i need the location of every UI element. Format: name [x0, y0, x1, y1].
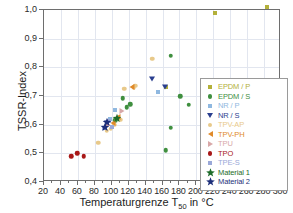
- legend-item-material-1[interactable]: Material 1: [204, 168, 285, 178]
- y-tick-mark: [39, 66, 43, 67]
- data-point: [130, 84, 135, 90]
- x-tick-mark: [145, 181, 146, 185]
- x-tick-mark: [178, 181, 179, 185]
- legend-label: EPDM / S: [218, 92, 250, 101]
- legend-label: TPO: [218, 149, 233, 158]
- y-tick-label: 0,4: [9, 176, 37, 186]
- gridline-vertical: [61, 10, 62, 180]
- data-point: [149, 76, 155, 81]
- legend-marker-icon: [206, 168, 214, 177]
- data-point: [150, 56, 155, 61]
- data-point: [119, 108, 124, 114]
- x-tick-label: 40: [55, 186, 65, 196]
- data-point: [131, 85, 136, 90]
- x-tick-label: 160: [154, 186, 169, 196]
- x-tick-label: 60: [72, 186, 82, 196]
- gridline-vertical: [146, 10, 147, 180]
- legend-label: TPE-S: [218, 158, 240, 167]
- legend-label: TPV-PH: [218, 130, 245, 139]
- data-point: [69, 154, 74, 159]
- x-axis-title-main: Temperaturgrenze T: [79, 196, 178, 208]
- legend-marker-icon: [206, 158, 214, 167]
- x-tick-minor: [170, 181, 171, 183]
- y-axis-title: TSSR-Index: [16, 36, 28, 166]
- data-point: [115, 115, 120, 120]
- chart-legend[interactable]: EPDM / PEPDM / SNR / PNR / STPV-APTPV-PH…: [200, 78, 288, 191]
- data-point: [104, 129, 109, 134]
- legend-item-tpv-ph[interactable]: TPV-PH: [204, 130, 285, 140]
- legend-item-tpe-s[interactable]: TPE-S: [204, 158, 285, 168]
- data-point: [169, 54, 174, 59]
- legend-item-material-2[interactable]: Material 2: [204, 177, 285, 187]
- data-point: [113, 118, 118, 123]
- legend-marker-icon: [206, 92, 214, 101]
- data-point: [107, 119, 111, 123]
- legend-marker-icon: [206, 101, 214, 110]
- legend-label: EPDM / P: [218, 82, 250, 91]
- data-point: [164, 148, 169, 153]
- legend-item-tpv-ap[interactable]: TPV-AP: [204, 120, 285, 130]
- legend-label: Material 1: [218, 168, 250, 177]
- x-tick-minor: [85, 181, 86, 183]
- x-tick-mark: [60, 181, 61, 185]
- legend-label: NR / P: [218, 101, 240, 110]
- data-point: [164, 85, 168, 89]
- x-tick-mark: [195, 181, 196, 185]
- legend-item-tpu[interactable]: TPU: [204, 139, 285, 149]
- y-tick-mark: [39, 152, 43, 153]
- data-point: [156, 90, 160, 94]
- data-point: [116, 114, 121, 120]
- legend-marker-icon: [206, 111, 214, 120]
- legend-item-epdm-p[interactable]: EPDM / P: [204, 82, 285, 92]
- y-tick-mark: [39, 38, 43, 39]
- x-tick-minor: [136, 181, 137, 183]
- x-tick-label: 20: [38, 186, 48, 196]
- y-tick-mark: [39, 95, 43, 96]
- gridline-vertical: [179, 10, 180, 180]
- legend-item-nr-s[interactable]: NR / S: [204, 111, 285, 121]
- x-tick-label: 80: [89, 186, 99, 196]
- gridline-vertical: [78, 10, 79, 180]
- legend-item-tpo[interactable]: TPO: [204, 149, 285, 159]
- x-tick-mark: [77, 181, 78, 185]
- x-tick-label: 120: [120, 186, 135, 196]
- x-tick-label: 100: [103, 186, 118, 196]
- legend-label: TPV-AP: [218, 120, 244, 129]
- x-tick-mark: [128, 181, 129, 185]
- x-tick-minor: [102, 181, 103, 183]
- legend-marker-icon: [206, 120, 214, 129]
- gridline-horizontal: [44, 39, 279, 40]
- x-axis-title-subscript: 50: [178, 202, 186, 211]
- x-tick-minor: [153, 181, 154, 183]
- x-tick-label: 140: [137, 186, 152, 196]
- legend-item-nr-p[interactable]: NR / P: [204, 101, 285, 111]
- data-point: [112, 114, 121, 123]
- x-tick-mark: [94, 181, 95, 185]
- data-point: [82, 154, 87, 159]
- x-tick-minor: [51, 181, 52, 183]
- data-point: [118, 117, 123, 122]
- chart-screenshot: 2040608010012014016018020022024026028030…: [0, 0, 293, 213]
- gridline-horizontal: [44, 67, 279, 68]
- data-point: [102, 126, 106, 130]
- gridline-vertical: [163, 10, 164, 180]
- x-tick-mark: [43, 181, 44, 185]
- y-tick-mark: [39, 181, 43, 182]
- data-point: [169, 125, 174, 130]
- data-point: [113, 108, 117, 112]
- x-tick-minor: [68, 181, 69, 183]
- x-tick-label: 180: [171, 186, 186, 196]
- gridline-vertical: [112, 10, 113, 180]
- legend-marker-icon: [206, 149, 214, 158]
- legend-label: Material 2: [218, 177, 250, 186]
- legend-item-epdm-s[interactable]: EPDM / S: [204, 92, 285, 102]
- data-point: [265, 5, 269, 9]
- y-tick-mark: [39, 9, 43, 10]
- legend-marker-icon: [206, 130, 214, 139]
- legend-label: NR / S: [218, 111, 240, 120]
- y-tick-label: 1,0: [9, 4, 37, 14]
- legend-label: TPU: [218, 139, 233, 148]
- x-tick-minor: [119, 181, 120, 183]
- legend-marker-icon: [206, 139, 214, 148]
- x-axis-title: Temperaturgrenze T50 in °C: [0, 196, 293, 211]
